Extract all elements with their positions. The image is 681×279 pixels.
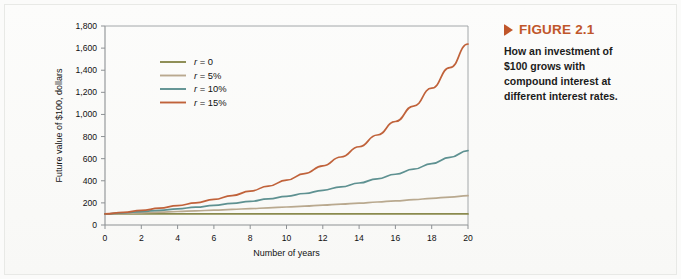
x-tick-label: 16	[391, 233, 401, 243]
triangle-right-icon	[504, 24, 513, 36]
x-axis-title: Number of years	[253, 248, 320, 258]
chart-svg: 02004006008001,0001,2001,4001,6001,80002…	[0, 0, 500, 279]
y-tick-label: 0	[92, 220, 97, 230]
figure-title: FIGURE 2.1	[519, 22, 595, 37]
series-line-2	[105, 151, 468, 214]
x-tick-label: 18	[427, 233, 437, 243]
chart-plot-area: 02004006008001,0001,2001,4001,6001,80002…	[0, 0, 500, 279]
x-tick-label: 6	[212, 233, 217, 243]
legend-label-0: r = 0	[194, 56, 213, 67]
y-tick-label: 1,800	[75, 21, 97, 31]
x-tick-label: 8	[248, 233, 253, 243]
x-tick-label: 14	[354, 233, 364, 243]
x-tick-label: 2	[139, 233, 144, 243]
x-tick-label: 20	[463, 233, 473, 243]
y-tick-label: 200	[83, 198, 98, 208]
series-line-3	[105, 44, 468, 214]
x-tick-label: 12	[318, 233, 328, 243]
y-tick-label: 800	[83, 132, 98, 142]
x-tick-label: 0	[103, 233, 108, 243]
legend-label-1: r = 5%	[194, 70, 221, 81]
y-tick-label: 1,000	[75, 109, 97, 119]
figure-container: 02004006008001,0001,2001,4001,6001,80002…	[0, 0, 681, 279]
legend-label-3: r = 15%	[194, 97, 227, 108]
y-tick-label: 1,400	[75, 65, 97, 75]
x-tick-label: 10	[282, 233, 292, 243]
y-tick-label: 1,200	[75, 87, 97, 97]
figure-heading: FIGURE 2.1	[504, 22, 664, 37]
y-tick-label: 400	[83, 176, 98, 186]
y-tick-label: 600	[83, 154, 98, 164]
y-tick-label: 1,600	[75, 43, 97, 53]
series-line-1	[105, 196, 468, 214]
x-tick-label: 4	[175, 233, 180, 243]
figure-caption-text: How an investment of $100 grows with com…	[504, 44, 636, 104]
legend-label-2: r = 10%	[194, 83, 227, 94]
figure-caption-panel: FIGURE 2.1 How an investment of $100 gro…	[504, 22, 664, 104]
y-axis-title: Future value of $100, dollars	[54, 68, 64, 183]
